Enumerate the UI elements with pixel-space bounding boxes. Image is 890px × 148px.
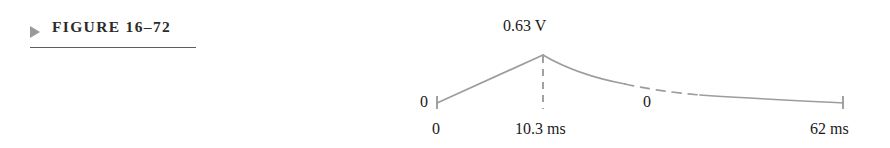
waveform-plot-svg bbox=[415, 8, 875, 144]
figure-caption-label: FIGURE 16–72 bbox=[52, 18, 171, 36]
peak-voltage-label: 0.63 V bbox=[503, 18, 546, 34]
caption-divider-rule bbox=[30, 47, 196, 48]
curve-ramp-up bbox=[437, 55, 543, 103]
curve-decay-dashed bbox=[625, 84, 700, 95]
curve-decay-solid-first bbox=[543, 55, 625, 84]
triangle-right-icon bbox=[30, 26, 40, 38]
time-origin-label: 0 bbox=[432, 121, 440, 137]
mid-zero-label: 0 bbox=[643, 94, 651, 110]
time-end-label: 62 ms bbox=[810, 121, 849, 137]
baseline-zero-label: 0 bbox=[420, 94, 428, 110]
curve-decay-solid-last bbox=[700, 95, 843, 103]
waveform-chart: 0.63 V 0 0 10.3 ms 0 62 ms bbox=[415, 8, 875, 144]
figure-caption-block: FIGURE 16–72 bbox=[28, 18, 228, 54]
time-peak-label: 10.3 ms bbox=[515, 121, 566, 137]
